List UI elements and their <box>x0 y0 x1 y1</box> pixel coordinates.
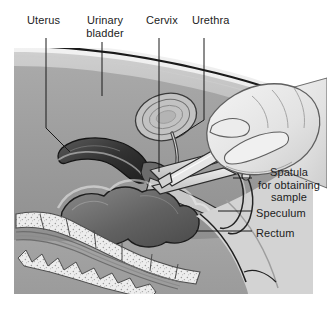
label-urethra: Urethra <box>192 14 229 27</box>
label-speculum: Speculum <box>256 207 306 220</box>
label-bladder: Urinary bladder <box>74 14 136 39</box>
label-cervix: Cervix <box>146 14 178 27</box>
label-uterus: Uterus <box>27 14 60 27</box>
label-spatula: Spatula for obtaining sample <box>253 166 325 204</box>
illustration-page: Uterus Urinary bladder Cervix Urethra Sp… <box>0 0 327 331</box>
label-rectum: Rectum <box>256 227 295 240</box>
